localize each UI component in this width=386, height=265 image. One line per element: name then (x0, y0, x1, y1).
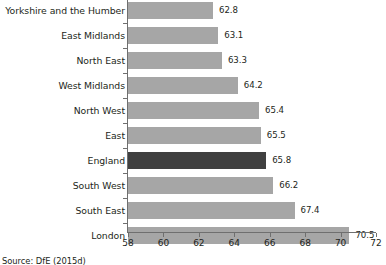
category-label: East Midlands (61, 23, 125, 48)
value-label: 67.4 (301, 198, 320, 223)
value-label: 63.3 (228, 48, 247, 73)
bar-row: South East67.4 (0, 198, 386, 223)
category-label: England (88, 148, 125, 173)
category-label: London (91, 223, 125, 248)
y-axis-tick (123, 48, 127, 49)
category-label: Yorkshire and the Humber (5, 0, 125, 23)
bar-row: England65.8 (0, 148, 386, 173)
value-label: 63.1 (224, 23, 243, 48)
value-label: 62.8 (219, 0, 238, 23)
bar-row: North East63.3 (0, 48, 386, 73)
y-axis-tick (123, 98, 127, 99)
y-axis-tick (123, 123, 127, 124)
bar-row: East65.5 (0, 123, 386, 148)
category-label: East (105, 123, 125, 148)
bar (128, 77, 238, 94)
bar (128, 177, 273, 194)
category-label: South East (75, 198, 125, 223)
bar-chart: Yorkshire and the Humber62.8East Midland… (0, 0, 386, 265)
x-axis-tick-label: 68 (299, 238, 310, 248)
category-label: North West (74, 98, 125, 123)
x-axis-tick (305, 233, 306, 237)
x-axis-tick (199, 233, 200, 237)
y-axis-tick (123, 148, 127, 149)
y-axis-tick (123, 223, 127, 224)
x-axis-tick-label: 62 (193, 238, 204, 248)
bar (128, 2, 213, 19)
value-label: 64.2 (244, 73, 263, 98)
bar-row: North West65.4 (0, 98, 386, 123)
bar-row: East Midlands63.1 (0, 23, 386, 48)
value-label: 66.2 (279, 173, 298, 198)
value-label: 65.5 (267, 123, 286, 148)
bar (128, 202, 295, 219)
y-axis-tick (123, 173, 127, 174)
source-note: Source: DfE (2015d) (2, 256, 86, 265)
x-axis-tick-label: 58 (122, 238, 133, 248)
x-axis-tick-label: 70 (335, 238, 346, 248)
y-axis-tick (123, 198, 127, 199)
x-axis-tick (270, 233, 271, 237)
bar-row: West Midlands64.2 (0, 73, 386, 98)
bar (128, 102, 259, 119)
category-label: West Midlands (58, 73, 125, 98)
x-axis-tick-label: 66 (264, 238, 275, 248)
bar (128, 27, 218, 44)
x-axis-tick-label: 60 (158, 238, 169, 248)
y-axis-tick (123, 23, 127, 24)
plot-area: Yorkshire and the Humber62.8East Midland… (0, 0, 386, 233)
x-axis-tick (163, 233, 164, 237)
bar-row: South West66.2 (0, 173, 386, 198)
value-label: 65.8 (272, 148, 291, 173)
x-axis-tick (341, 233, 342, 237)
category-label: South West (73, 173, 125, 198)
bar (128, 127, 261, 144)
x-axis-tick (128, 233, 129, 237)
x-axis-tick-label: 64 (229, 238, 240, 248)
bar (128, 152, 266, 169)
x-axis-tick (376, 233, 377, 237)
x-axis-tick-label: 72 (370, 238, 381, 248)
category-label: North East (76, 48, 125, 73)
value-label: 65.4 (265, 98, 284, 123)
x-axis-tick (234, 233, 235, 237)
bar-row: Yorkshire and the Humber62.8 (0, 0, 386, 23)
y-axis-tick (123, 73, 127, 74)
bar (128, 52, 222, 69)
